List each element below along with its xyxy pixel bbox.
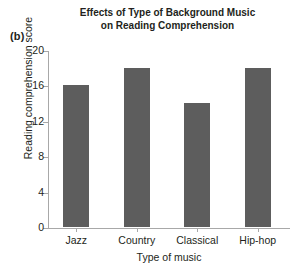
x-category-label-country: Country — [118, 234, 155, 246]
bar-jazz — [63, 85, 89, 227]
y-axis-line — [48, 51, 49, 228]
x-tick-mark-country — [137, 228, 138, 232]
x-category-label-hip-hop: Hip-hop — [239, 234, 276, 246]
x-tick-mark-hip-hop — [258, 228, 259, 232]
x-axis-title: Type of music — [48, 251, 290, 263]
x-category-label-classical: Classical — [176, 234, 218, 246]
x-category-label-jazz: Jazz — [65, 234, 87, 246]
plot-area: 048121620 JazzCountryClassicalHip-hop — [48, 51, 290, 228]
chart-title-line-2: on Reading Comprehension — [40, 19, 295, 32]
figure-panel-b: (b) Effects of Type of Background Music … — [0, 0, 299, 274]
y-tick-label: 16 — [32, 79, 44, 91]
chart-title-line-1: Effects of Type of Background Music — [40, 6, 295, 19]
bar-country — [124, 68, 150, 227]
y-tick-label: 12 — [32, 115, 44, 127]
y-tick-label: 8 — [38, 150, 44, 162]
y-tick-label: 20 — [32, 44, 44, 56]
y-tick-label: 4 — [38, 186, 44, 198]
x-tick-mark-jazz — [76, 228, 77, 232]
chart-title: Effects of Type of Background Music on R… — [40, 6, 295, 32]
bar-classical — [184, 103, 210, 227]
x-axis-line — [48, 228, 290, 229]
y-tick-label: 0 — [38, 221, 44, 233]
bar-hip-hop — [245, 68, 271, 227]
x-tick-mark-classical — [197, 228, 198, 232]
